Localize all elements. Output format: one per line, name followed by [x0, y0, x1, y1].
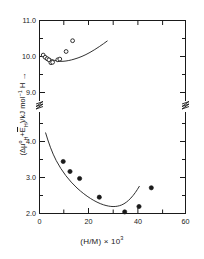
- upper-top-x-ticks: [64, 21, 163, 26]
- upper-right-major-ticks: [180, 21, 186, 93]
- data-point-filled: [78, 176, 82, 180]
- ytick-label-2: 2.0: [26, 209, 36, 218]
- x-axis-label-exponent: 3: [120, 235, 123, 241]
- data-point-filled: [137, 204, 141, 208]
- y-axis-label-text: (ΔμoH+EH)/kJ mol−1 H: [19, 81, 28, 156]
- x-minor-ticks: [64, 210, 163, 214]
- figure-container: 11.0 10.0 9.0: [0, 0, 204, 259]
- x-major-ticks: [40, 208, 186, 214]
- data-point-open: [71, 39, 75, 43]
- axis-break-left: [36, 102, 43, 110]
- data-point-filled: [149, 186, 153, 190]
- data-point-filled: [123, 210, 127, 214]
- data-point-filled: [68, 169, 72, 173]
- data-point-open: [64, 50, 68, 54]
- data-point-open: [58, 57, 62, 61]
- y-axis-arrow-icon: →: [19, 72, 28, 80]
- data-point-filled: [97, 195, 101, 199]
- x-axis-label-main: (H/M) × 10: [80, 237, 120, 246]
- lower-panel: [39, 112, 186, 214]
- y-axis-label: (ΔμoH+EH)/kJ mol−1 H →: [17, 29, 29, 199]
- lower-trend-curve: [46, 133, 140, 207]
- xtick-label-40: 40: [134, 217, 142, 226]
- xtick-label-20: 20: [85, 217, 93, 226]
- xtick-label-0: 0: [38, 217, 42, 226]
- upper-trend-curve: [43, 41, 107, 62]
- xtick-label-60: 60: [182, 217, 190, 226]
- data-point-filled: [61, 159, 65, 163]
- lower-left-minor-ticks: [40, 124, 44, 196]
- ytick-label-11: 11.0: [23, 16, 36, 25]
- x-axis-label: (H/M) × 103: [0, 235, 204, 246]
- lower-right-minor-ticks: [182, 124, 186, 196]
- lower-right-major-ticks: [180, 142, 186, 214]
- chart-svg: 11.0 10.0 9.0: [0, 0, 204, 259]
- lower-left-major-ticks: [40, 142, 46, 214]
- axis-break-right: [182, 102, 189, 110]
- data-point-open: [51, 60, 55, 64]
